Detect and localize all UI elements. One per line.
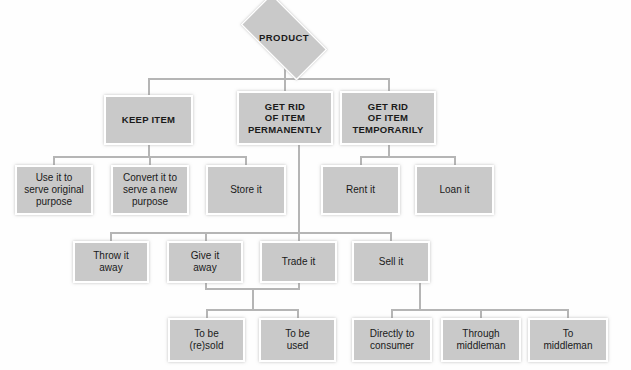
node-rent-it-label: Rent it — [343, 184, 378, 196]
node-throw-it-away[interactable]: Throw it away — [73, 241, 149, 283]
node-through-middleman[interactable]: Through middleman — [441, 318, 521, 362]
node-to-be-resold-label: To be (re)sold — [187, 328, 227, 352]
line-1: GET RID — [248, 101, 322, 112]
line-2: consumer — [370, 340, 414, 352]
line-3: PERMANENTLY — [248, 124, 322, 135]
line-2: serve a new — [123, 184, 177, 196]
node-through-middleman-label: Through middleman — [454, 328, 509, 352]
node-directly-to-consumer-label: Directly to consumer — [367, 328, 417, 352]
node-trade-it[interactable]: Trade it — [260, 241, 337, 283]
node-sell-it-label: Sell it — [376, 256, 406, 268]
node-product-label: PRODUCT — [259, 32, 309, 43]
line-3: purpose — [123, 196, 177, 208]
node-keep-item[interactable]: KEEP ITEM — [104, 95, 193, 145]
line-1: Throw it — [93, 250, 129, 262]
node-product[interactable]: PRODUCT — [228, 6, 340, 68]
connector-temp-bar — [360, 156, 456, 158]
connector-trade-spread-bar — [206, 309, 299, 311]
node-trade-it-label: Trade it — [279, 256, 319, 268]
node-to-middleman-label: To middleman — [541, 328, 596, 352]
connector-level2-bar — [148, 78, 388, 80]
line-2: middleman — [457, 340, 506, 352]
connector-perm-bar — [110, 232, 390, 234]
line-2: middleman — [544, 340, 593, 352]
line-1: To — [544, 328, 593, 340]
node-convert-new-purpose-label: Convert it to serve a new purpose — [120, 172, 180, 207]
node-store-it-label: Store it — [227, 184, 265, 196]
node-get-rid-temporarily-label: GET RID OF ITEM TEMPORARILY — [349, 101, 426, 135]
node-loan-it[interactable]: Loan it — [415, 165, 494, 215]
node-to-be-resold[interactable]: To be (re)sold — [168, 318, 245, 362]
line-1: To be — [190, 328, 224, 340]
node-loan-it-label: Loan it — [436, 184, 472, 196]
line-2: serve original — [24, 184, 83, 196]
node-to-be-used-label: To be used — [282, 328, 312, 352]
line-2: away — [191, 262, 219, 274]
line-1: Through — [457, 328, 506, 340]
node-use-original-purpose-label: Use it to serve original purpose — [21, 172, 86, 207]
line-3: purpose — [24, 196, 83, 208]
node-use-original-purpose[interactable]: Use it to serve original purpose — [15, 165, 93, 215]
node-to-middleman[interactable]: To middleman — [528, 318, 608, 362]
node-rent-it[interactable]: Rent it — [321, 165, 400, 215]
line-2: used — [285, 340, 309, 352]
line-1: Convert it to — [123, 172, 177, 184]
line-2: away — [93, 262, 129, 274]
node-get-rid-permanently-label: GET RID OF ITEM PERMANENTLY — [245, 101, 325, 135]
line-2: OF ITEM — [352, 112, 423, 123]
node-get-rid-temporarily[interactable]: GET RID OF ITEM TEMPORARILY — [340, 91, 436, 145]
node-sell-it[interactable]: Sell it — [352, 241, 430, 283]
node-convert-new-purpose[interactable]: Convert it to serve a new purpose — [111, 165, 189, 215]
diagram-canvas: PRODUCT KEEP ITEM GET RID OF ITEM PERMAN… — [0, 0, 631, 370]
line-1: Use it to — [24, 172, 83, 184]
node-give-it-away-label: Give it away — [188, 250, 222, 274]
node-get-rid-permanently[interactable]: GET RID OF ITEM PERMANENTLY — [237, 91, 333, 145]
connector-sell-stem — [419, 283, 421, 310]
node-throw-it-away-label: Throw it away — [90, 250, 132, 274]
line-1: GET RID — [352, 101, 423, 112]
line-1: Give it — [191, 250, 219, 262]
node-give-it-away[interactable]: Give it away — [167, 241, 243, 283]
line-2: OF ITEM — [248, 112, 322, 123]
line-2: (re)sold — [190, 340, 224, 352]
node-directly-to-consumer[interactable]: Directly to consumer — [352, 318, 432, 362]
connector-level2-drop-keep — [148, 78, 150, 95]
node-to-be-used[interactable]: To be used — [259, 318, 336, 362]
node-keep-item-label: KEEP ITEM — [119, 114, 178, 125]
line-3: TEMPORARILY — [352, 124, 423, 135]
line-1: To be — [285, 328, 309, 340]
connector-perm-stem — [298, 145, 300, 233]
node-store-it[interactable]: Store it — [206, 165, 286, 215]
connector-trade-mid-drop — [252, 288, 254, 310]
line-1: Directly to — [370, 328, 414, 340]
